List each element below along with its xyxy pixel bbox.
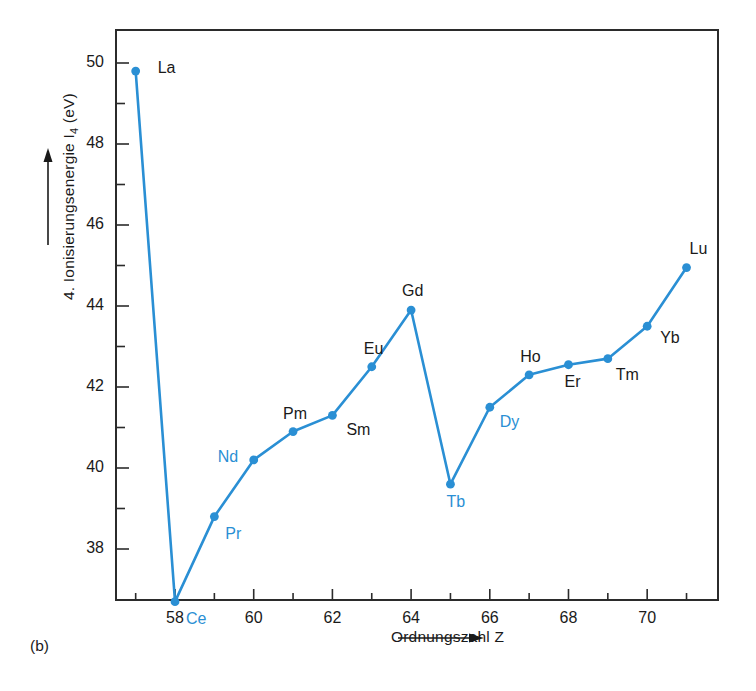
x-axis-title: Ordnungszahl Z	[391, 628, 504, 646]
y-tick-label: 44	[70, 296, 104, 314]
x-axis-title-container: Ordnungszahl Z	[391, 628, 486, 646]
x-tick-label: 60	[234, 609, 274, 627]
y-axis-arrow-head	[44, 148, 53, 162]
figure-panel: 4. Ionisierungsenergie I4 (eV) Ordnungsz…	[0, 0, 756, 691]
data-point-label-la: La	[158, 60, 176, 76]
axis-direction-arrows	[44, 148, 53, 245]
y-tick-label: 40	[70, 458, 104, 476]
y-tick-label: 46	[70, 215, 104, 233]
axis-ticks	[116, 63, 687, 600]
data-point-label-gd: Gd	[402, 283, 423, 299]
data-point-label-tb: Tb	[446, 494, 465, 510]
panel-caption: (b)	[30, 637, 49, 655]
y-axis-title: 4. Ionisierungsenergie I4 (eV)	[60, 93, 80, 300]
data-point-label-ho: Ho	[520, 349, 540, 365]
data-point-label-er: Er	[564, 374, 580, 390]
data-point-label-pm: Pm	[283, 406, 307, 422]
x-tick-label: 70	[627, 609, 667, 627]
data-series-ionization-energy	[131, 67, 691, 606]
data-point-label-pr: Pr	[225, 526, 241, 542]
data-point-label-eu: Eu	[364, 341, 384, 357]
y-tick-label: 38	[70, 539, 104, 557]
x-tick-label: 68	[548, 609, 588, 627]
x-tick-label: 62	[312, 609, 352, 627]
data-point-label-tm: Tm	[616, 367, 639, 383]
data-point-label-nd: Nd	[218, 449, 238, 465]
y-tick-label: 48	[70, 134, 104, 152]
data-point-label-ce: Ce	[186, 611, 206, 627]
data-point-label-yb: Yb	[660, 330, 680, 346]
data-point-label-lu: Lu	[690, 241, 708, 257]
data-point-label-dy: Dy	[500, 414, 520, 430]
x-tick-label: 64	[391, 609, 431, 627]
y-tick-label: 50	[70, 53, 104, 71]
data-point-label-sm: Sm	[346, 422, 370, 438]
y-tick-label: 42	[70, 377, 104, 395]
plot-frame	[116, 30, 718, 600]
x-tick-label: 66	[470, 609, 510, 627]
